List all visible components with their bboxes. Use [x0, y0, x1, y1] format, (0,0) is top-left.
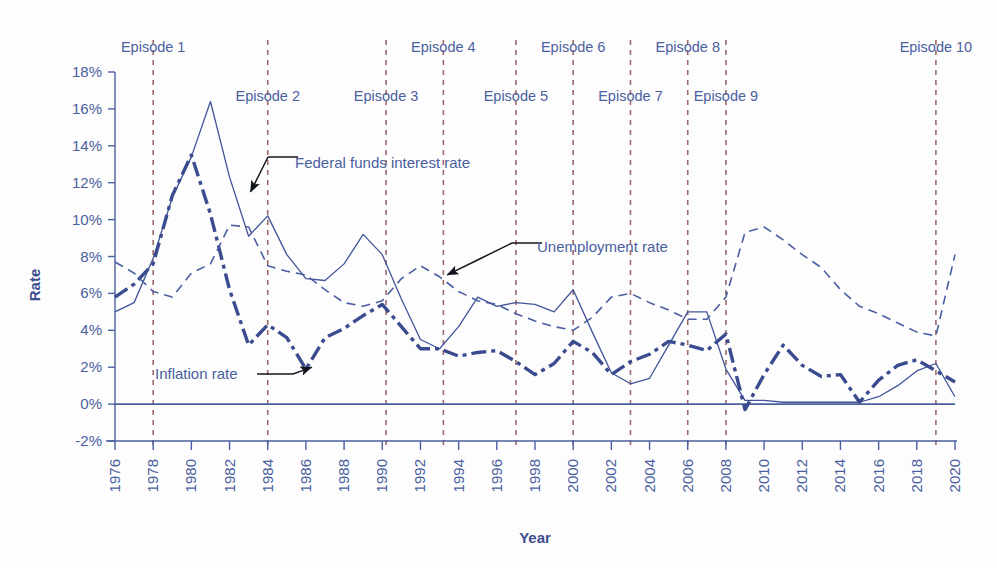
rate-episodes-line-chart: Episode 1Episode 2Episode 3Episode 4Epis…	[0, 0, 997, 568]
x-axis-tick-label: 1984	[259, 459, 276, 492]
x-axis-tick-label: 2020	[946, 459, 963, 492]
episode-marker-label: Episode 3	[354, 88, 419, 104]
x-axis-tick-label: 1982	[221, 459, 238, 492]
y-axis-tick-label: 12%	[72, 174, 102, 191]
episode-marker-label: Episode 2	[235, 88, 300, 104]
annotations: Federal funds interest rateUnemployment …	[155, 154, 668, 382]
y-axis-tick-label: 18%	[72, 63, 102, 80]
x-axis-tick-label: 2008	[717, 459, 734, 492]
x-axis-tick-label: 1996	[488, 459, 505, 492]
annotation-label: Unemployment rate	[537, 238, 668, 255]
y-axis-tick-label: 4%	[80, 321, 102, 338]
x-axis-tick-label: 1978	[144, 459, 161, 492]
x-axis-tick-label: 2002	[602, 459, 619, 492]
chart-canvas: Episode 1Episode 2Episode 3Episode 4Epis…	[0, 0, 997, 568]
y-axis-tick-label: 2%	[80, 358, 102, 375]
series-line	[115, 225, 955, 336]
x-axis-tick-label: 1980	[182, 459, 199, 492]
episode-marker-label: Episode 6	[541, 39, 606, 55]
x-axis-tick-label: 2014	[831, 459, 848, 492]
y-axis-tick-label: 8%	[80, 248, 102, 265]
episode-marker-label: Episode 4	[411, 39, 476, 55]
series-line	[115, 102, 955, 403]
x-axis-title: Year	[519, 529, 551, 546]
y-axis-tick-label: 14%	[72, 137, 102, 154]
x-axis-tick-label: 1988	[335, 459, 352, 492]
y-axis: 18%16%14%12%10%8%6%4%2%0%-2%Rate	[26, 63, 115, 449]
x-axis-tick-label: 2004	[641, 459, 658, 492]
y-axis-tick-label: 10%	[72, 211, 102, 228]
episode-marker-label: Episode 10	[900, 39, 973, 55]
x-axis-tick-label: 2010	[755, 459, 772, 492]
x-axis-tick-label: 1998	[526, 459, 543, 492]
annotation-label: Inflation rate	[155, 365, 238, 382]
x-axis-tick-label: 2018	[908, 459, 925, 492]
annotation-leader	[447, 243, 512, 275]
episode-marker-label: Episode 8	[655, 39, 720, 55]
episode-marker-label: Episode 1	[121, 39, 186, 55]
x-axis-tick-label: 1992	[411, 459, 428, 492]
y-axis-tick-label: 16%	[72, 100, 102, 117]
y-axis-tick-label: 0%	[80, 395, 102, 412]
x-axis-tick-label: 1976	[106, 459, 123, 492]
x-axis-tick-label: 2000	[564, 459, 581, 492]
x-axis-tick-label: 2012	[793, 459, 810, 492]
x-axis-tick-label: 2016	[870, 459, 887, 492]
episode-marker-label: Episode 9	[694, 88, 759, 104]
y-axis-title: Rate	[26, 269, 43, 302]
y-axis-tick-label: -2%	[75, 432, 102, 449]
series-line	[115, 155, 955, 410]
y-axis-tick-label: 6%	[80, 284, 102, 301]
episode-marker-label: Episode 7	[598, 88, 663, 104]
annotation-leader	[293, 367, 312, 374]
x-axis: 1976197819801982198419861988199019921994…	[106, 441, 963, 546]
episode-marker-label: Episode 5	[484, 88, 549, 104]
x-axis-tick-label: 2006	[679, 459, 696, 492]
x-axis-tick-label: 1994	[450, 459, 467, 492]
series-group	[115, 102, 955, 410]
x-axis-tick-label: 1986	[297, 459, 314, 492]
annotation-leader	[251, 157, 268, 192]
annotation-label: Federal funds interest rate	[295, 154, 470, 171]
x-axis-tick-label: 1990	[373, 459, 390, 492]
